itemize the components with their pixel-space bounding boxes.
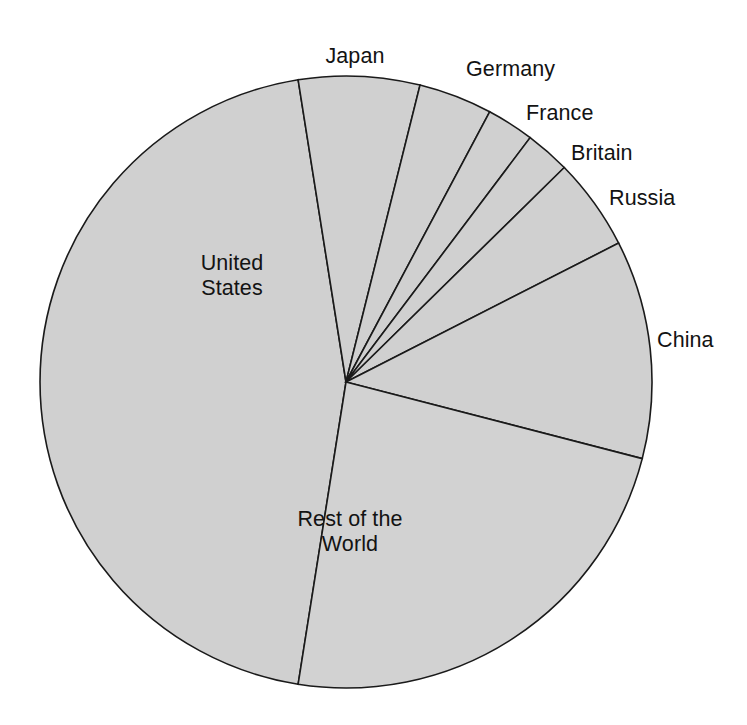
pie-label-japan: Japan <box>325 44 384 69</box>
pie-label-china: China <box>657 328 714 353</box>
pie-label-britain: Britain <box>571 141 633 166</box>
pie-chart: Japan Germany France Britain Russia Chin… <box>0 0 747 725</box>
pie-slice-group <box>40 76 652 688</box>
pie-label-france: France <box>526 101 594 126</box>
pie-label-germany: Germany <box>466 57 555 82</box>
pie-slice-united-states[interactable] <box>40 80 346 684</box>
pie-label-rest-of-world-line2: World <box>322 532 378 556</box>
pie-label-rest-of-world: Rest of theWorld <box>297 507 402 557</box>
pie-label-united-states-line1: United <box>201 251 264 275</box>
pie-label-united-states-line2: States <box>201 276 263 300</box>
pie-label-united-states: UnitedStates <box>201 251 264 301</box>
pie-label-rest-of-world-line1: Rest of the <box>297 507 402 531</box>
pie-label-russia: Russia <box>609 186 675 211</box>
pie-chart-svg <box>0 0 747 725</box>
